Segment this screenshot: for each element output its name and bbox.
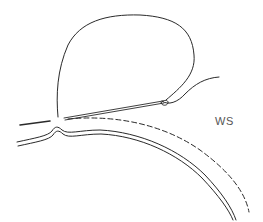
ws-label: WS: [215, 115, 234, 127]
tissue-wall: [17, 127, 236, 220]
suture-diagram: WS: [0, 0, 263, 222]
needle: [64, 101, 163, 118]
diagram-canvas: [0, 0, 263, 222]
dashed-contour: [68, 118, 249, 212]
suture-tail: [162, 77, 219, 103]
left-stub: [20, 121, 50, 125]
